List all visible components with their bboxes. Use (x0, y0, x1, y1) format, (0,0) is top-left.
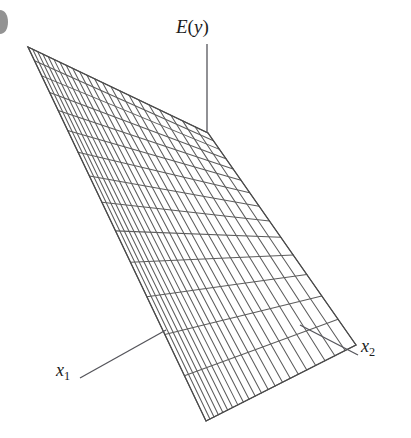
mesh-line-v-4 (48, 57, 223, 413)
mesh-line-u-2 (42, 76, 220, 149)
label-ey-close-paren: ) (202, 16, 208, 37)
axis-label-x1-base: x (56, 360, 64, 380)
mesh-line-v-20 (183, 121, 335, 356)
surface-label-ey: E(y) (176, 17, 209, 36)
mesh-line-v-21 (195, 127, 345, 351)
axis-label-x1-subscript: 1 (64, 369, 70, 383)
axis-label-x1: x1 (56, 361, 70, 382)
mesh-line-v-18 (160, 110, 316, 366)
label-ey-name: E (176, 16, 188, 37)
figure-container: E(y) x1 x2 (0, 0, 411, 438)
axis-label-x2-base: x (361, 336, 369, 356)
axis-label-x2-subscript: 2 (369, 345, 375, 359)
x1-leader (80, 330, 166, 378)
cropped-figure-letter (0, 10, 8, 34)
x2-leader (300, 325, 358, 355)
axis-label-x2: x2 (361, 337, 375, 358)
